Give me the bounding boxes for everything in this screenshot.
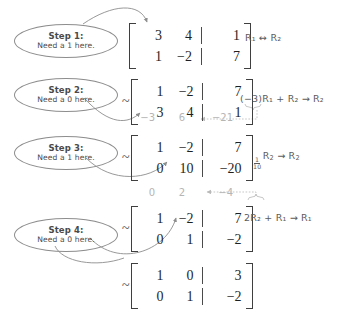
row-operation-2: (−3)R₁ + R₂ → R₂ [240,93,324,104]
callout-step-2-title: Step 2: [48,85,83,95]
row-operation-4: 2R₂ + R₁ → R₁ [244,212,312,223]
equivalence-tilde-4: ~ [122,222,130,236]
equivalence-tilde-2: ~ [122,95,130,109]
bracket-right-5 [246,263,253,309]
augment-divider [202,139,203,156]
cell-r2c3: −2 [210,289,244,305]
row-operation-3-body: R2 → R2 [263,150,300,161]
augmented-matrix-1: 3 4 1 1 −2 7 [129,22,251,70]
augment-divider [202,231,203,248]
cell-r2c3: −20 [210,161,244,177]
callout-step-1-title: Step 1: [48,31,83,41]
callout-step-4-subtitle: Need a 0 here. [37,235,95,245]
callout-step-2-subtitle: Need a 0 here. [37,95,95,105]
augment-divider [202,210,203,227]
matrix-step-3: ~ 1 −2 7 0 10 −20 [122,134,253,182]
cell-r2c1: 0 [140,289,166,305]
cell-r1c3: 3 [210,268,244,284]
augmented-matrix-4: 1 −2 7 0 1 −2 [131,205,253,253]
cell-r1c3: 7 [210,84,244,100]
augment-divider [202,83,203,100]
bracket-left-3 [131,135,138,181]
augment-divider [202,160,203,177]
cell-r2c2: −2 [164,49,194,65]
bracket-right-1 [244,23,251,69]
cell-r2c1: 0 [140,232,166,248]
cell-r1c1: 1 [140,268,166,284]
callout-step-2: Step 2: Need a 0 here. [14,78,118,112]
equivalence-tilde-3: ~ [122,151,130,165]
scratch-value-1: 0 [131,187,157,198]
cell-r1c2: −2 [166,211,196,227]
cell-r1c2: 0 [166,268,196,284]
cell-r2c2: 1 [166,232,196,248]
augment-divider [202,288,203,305]
callout-step-1: Step 1: Need a 1 here. [14,24,118,58]
callout-step-3-title: Step 3: [48,143,83,153]
callout-step-4: Step 4: Need a 0 here. [14,218,118,252]
row-operation-1: R₁ ↔ R₂ [245,32,281,43]
cell-r1c2: −2 [166,84,196,100]
scratch-value-3: −4 [201,187,235,198]
row-operation-3: 1 10 R2 → R2 [252,150,300,170]
worked-example-page: Step 1: Need a 1 here. 3 4 1 1 −2 7 R₁ ↔… [0,0,347,313]
equivalence-tilde-5: ~ [122,279,130,293]
augmented-matrix-3: 1 −2 7 0 10 −20 [131,134,253,182]
cell-r2c2: 1 [166,289,196,305]
cell-r2c3: −2 [210,232,244,248]
callout-step-3-subtitle: Need a 1 here. [37,153,95,163]
callout-step-4-title: Step 4: [48,225,83,235]
cell-r1c3: 1 [208,28,242,44]
fraction-one-tenth: 1 10 [252,157,262,170]
cell-r1c3: 7 [210,140,244,156]
cell-r2c1: 1 [138,49,164,65]
cell-r1c1: 1 [140,140,166,156]
bracket-left-1 [129,23,136,69]
scratch-value-3: −21 [201,112,235,123]
augment-divider [202,267,203,284]
scratch-row-step-4: 0 2 −4 [131,187,235,198]
cell-r1c3: 7 [210,211,244,227]
callout-step-3: Step 3: Need a 1 here. [14,136,118,170]
cell-r1c1: 3 [138,28,164,44]
augment-divider [201,48,202,65]
scratch-value-2: 6 [157,112,187,123]
cell-r1c1: 1 [140,84,166,100]
bracket-left-5 [131,263,138,309]
scratch-value-1: −3 [131,112,157,123]
matrix-step-1: 3 4 1 1 −2 7 [128,22,251,70]
cell-r1c2: 4 [164,28,194,44]
bracket-left-4 [131,206,138,252]
scratch-value-2: 2 [157,187,187,198]
cell-r2c1: 0 [140,161,166,177]
cell-r2c2: 10 [166,161,196,177]
callout-step-1-subtitle: Need a 1 here. [37,41,95,51]
scratch-row-step-2: −3 6 −21 [131,112,235,123]
matrix-final: ~ 1 0 3 0 1 −2 [122,262,253,310]
augmented-matrix-final: 1 0 3 0 1 −2 [131,262,253,310]
cell-r1c1: 1 [140,211,166,227]
cell-r2c3: 7 [208,49,242,65]
fraction-denominator: 10 [252,164,262,170]
augment-divider [201,27,202,44]
step4-brace [248,194,264,200]
matrix-step-4: ~ 1 −2 7 0 1 −2 [122,205,253,253]
cell-r1c2: −2 [166,140,196,156]
